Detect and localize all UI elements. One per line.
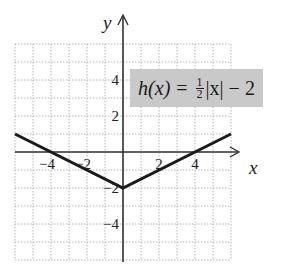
y-tick-label: 4 (112, 72, 120, 88)
y-axis-label: y (101, 12, 112, 33)
x-tick-label: 4 (191, 156, 199, 172)
y-tick-label: 2 (112, 108, 120, 124)
x-tick-label: −4 (39, 156, 55, 172)
x-axis-label: x (248, 157, 258, 178)
equals-sign: = (176, 77, 187, 100)
function-name: h(x) (138, 77, 170, 100)
function-label-box: h(x) = 1 2 |x| − 2 (130, 69, 263, 107)
y-tick-label: −4 (103, 216, 119, 232)
graph-canvas: x y −4−22442−2−4 (0, 0, 299, 264)
fraction-denominator: 2 (197, 89, 203, 100)
fraction: 1 2 (196, 77, 204, 100)
function-body: |x| − 2 (206, 77, 255, 100)
